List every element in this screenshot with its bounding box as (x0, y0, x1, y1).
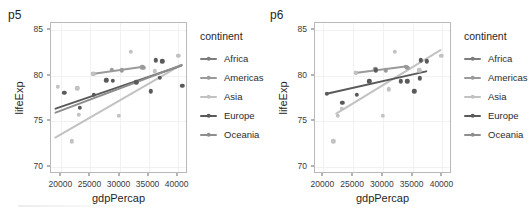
y-axis-tick-mark (311, 29, 314, 30)
data-point-europe (399, 79, 403, 83)
legend-item-label: Asia (488, 91, 506, 102)
figure-root: p5 continent AfricaAmericasAsiaEuropeOce… (0, 0, 532, 213)
x-axis-tick-label: 30000 (107, 179, 131, 189)
legend-key-icon (200, 110, 217, 121)
legend-item-label: Americas (488, 72, 528, 83)
legend-item-asia[interactable]: Asia (464, 89, 528, 104)
y-axis-tick-label: 75 (34, 115, 43, 125)
x-axis-tick-mark (147, 173, 148, 176)
trend-line-americas (92, 66, 144, 75)
legend-item-label: Africa (488, 53, 512, 64)
data-point-europe (160, 59, 164, 63)
y-axis-tick-mark (47, 120, 50, 121)
data-point-asia (331, 139, 335, 143)
legend-item-label: Oceania (488, 129, 523, 140)
x-axis-tick-label: 40000 (165, 179, 189, 189)
gridline-vertical (413, 23, 414, 172)
legend-key-icon (200, 72, 217, 83)
y-axis-tick-label: 85 (34, 24, 43, 34)
data-point-asia (77, 113, 81, 117)
legend-key-icon (200, 129, 217, 140)
legend-key-icon (464, 91, 481, 102)
y-axis-tick-mark (47, 74, 50, 75)
legend-items: AfricaAmericasAsiaEuropeOceania (464, 51, 528, 142)
legend-item-oceania[interactable]: Oceania (464, 127, 528, 142)
legend-key-icon (200, 91, 217, 102)
legend-item-africa[interactable]: Africa (200, 51, 264, 66)
page-title-p5: p5 (8, 8, 22, 22)
x-axis-title: gdpPercap (356, 192, 409, 204)
legend-item-label: Europe (224, 110, 255, 121)
x-axis-tick-label: 35000 (400, 179, 424, 189)
y-axis-title: lifeExp (13, 81, 25, 114)
data-point-europe (425, 59, 429, 63)
plot-area-p5 (50, 22, 187, 173)
x-axis-tick-mark (441, 173, 442, 176)
legend-item-oceania[interactable]: Oceania (200, 127, 264, 142)
data-point-europe (134, 80, 138, 84)
legend-title: continent (464, 30, 528, 42)
legend-item-europe[interactable]: Europe (464, 108, 528, 123)
data-point-europe (180, 84, 184, 88)
data-point-europe (154, 58, 158, 62)
legend-item-africa[interactable]: Africa (464, 51, 528, 66)
data-point-asia (387, 87, 391, 91)
x-axis-tick-label: 25000 (340, 179, 364, 189)
data-point-europe (110, 79, 114, 83)
legend-item-label: Americas (224, 72, 264, 83)
x-axis-tick-mark (322, 173, 323, 176)
gridline-horizontal (51, 121, 186, 122)
legend-p5: continent AfricaAmericasAsiaEuropeOceani… (200, 30, 264, 146)
legend-item-europe[interactable]: Europe (200, 108, 264, 123)
y-axis-tick-label: 70 (34, 161, 43, 171)
y-axis-tick-mark (47, 29, 50, 30)
panel-background-p5 (50, 22, 187, 173)
y-axis-tick-label: 80 (298, 70, 307, 80)
data-point-asia (335, 114, 339, 118)
gridline-vertical (353, 23, 354, 172)
legend-p6: continent AfricaAmericasAsiaEuropeOceani… (464, 30, 528, 146)
y-axis-tick-mark (311, 165, 314, 166)
legend-item-label: Africa (224, 53, 248, 64)
legend-key-icon (464, 129, 481, 140)
y-axis-title: lifeExp (277, 81, 289, 114)
x-axis-tick-mark (89, 173, 90, 176)
x-axis-tick-mark (381, 173, 382, 176)
plot-area-p6 (314, 22, 451, 173)
y-axis-tick-mark (47, 165, 50, 166)
x-axis-tick-mark (60, 173, 61, 176)
x-axis-tick-mark (118, 173, 119, 176)
legend-key-icon (464, 53, 481, 64)
data-point-europe (149, 89, 153, 93)
data-point-europe (354, 93, 358, 97)
y-axis-tick-label: 70 (298, 161, 307, 171)
legend-item-label: Oceania (224, 129, 259, 140)
data-point-asia (176, 54, 180, 58)
x-axis-tick-label: 20000 (311, 179, 335, 189)
data-point-europe (405, 79, 409, 83)
x-axis-tick-label: 20000 (49, 179, 73, 189)
gridline-horizontal (315, 121, 450, 122)
legend-item-asia[interactable]: Asia (200, 89, 264, 104)
x-axis-tick-mark (176, 173, 177, 176)
data-point-europe (78, 105, 82, 109)
page-title-p6: p6 (270, 8, 284, 22)
data-point-asia (56, 84, 60, 88)
data-point-asia (381, 114, 385, 118)
data-point-asia (393, 50, 397, 54)
scan-artifact (18, 205, 136, 207)
panel-background-p6 (314, 22, 451, 173)
data-point-asia (70, 139, 74, 143)
data-point-americas (120, 68, 124, 72)
y-axis-tick-label: 80 (34, 70, 43, 80)
gridline-horizontal (315, 76, 450, 77)
x-axis-title: gdpPercap (92, 192, 145, 204)
legend-item-americas[interactable]: Americas (464, 70, 528, 85)
legend-item-americas[interactable]: Americas (200, 70, 264, 85)
data-point-europe (412, 89, 416, 93)
data-point-asia (354, 71, 358, 75)
y-axis-tick-mark (311, 74, 314, 75)
gridline-vertical (442, 23, 443, 172)
chart-panel-p5: p5 continent AfricaAmericasAsiaEuropeOce… (0, 0, 266, 213)
gridline-vertical (61, 23, 62, 172)
